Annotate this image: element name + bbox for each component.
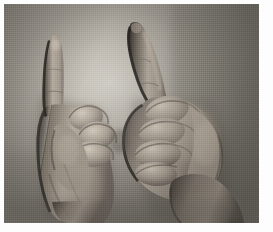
left-index-finger [44, 35, 64, 116]
knuckle-contact-point [111, 129, 129, 153]
photo-canvas [4, 4, 259, 223]
page-root: Black and white photograph of two hands,… [0, 0, 273, 232]
photograph [4, 4, 259, 223]
lower-shadow-band [4, 200, 259, 223]
